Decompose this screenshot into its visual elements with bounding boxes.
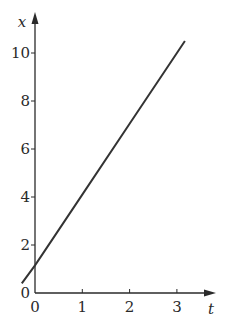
y-tick-label: 4 — [20, 188, 30, 206]
y-tick-label: 6 — [20, 140, 30, 158]
axes — [32, 12, 217, 297]
x-tick-label: 1 — [78, 298, 88, 316]
y-axis-label: x — [18, 13, 27, 31]
x-tick-label: 3 — [172, 298, 182, 316]
data-line — [22, 41, 185, 283]
x-tick-label: 0 — [30, 298, 40, 316]
y-tick-label: 8 — [20, 92, 30, 110]
y-tick-label: 10 — [11, 44, 30, 62]
x-tick-label: 2 — [125, 298, 135, 316]
x-axis-label: t — [208, 300, 215, 318]
y-axis-arrow-icon — [32, 12, 39, 24]
chart-canvas: 0246810 0123 x t — [0, 0, 232, 329]
y-ticks: 0246810 — [11, 44, 35, 302]
x-axis-arrow-icon — [204, 290, 216, 297]
y-tick-label: 0 — [20, 284, 30, 302]
y-tick-label: 2 — [20, 236, 30, 254]
